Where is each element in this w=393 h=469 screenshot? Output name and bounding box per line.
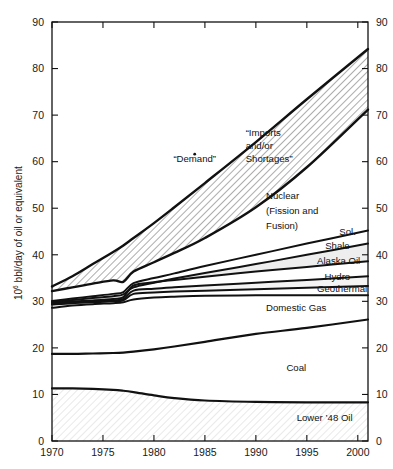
x-tick-1990: 1990 — [244, 446, 268, 458]
y-tick-left-40: 40 — [32, 249, 44, 261]
y-tick-right-50: 50 — [376, 202, 388, 214]
y-tick-left-20: 20 — [32, 342, 44, 354]
y-tick-right-80: 80 — [376, 62, 388, 74]
y-tick-right-90: 90 — [376, 16, 388, 28]
y-tick-left-90: 90 — [32, 16, 44, 28]
alaska-oil-label: Alaska Oil — [317, 255, 360, 266]
curve-coal — [52, 319, 368, 353]
y-tick-left-80: 80 — [32, 62, 44, 74]
geothermal-label: Geothermal — [317, 283, 367, 294]
imports-label-line3: Shortages” — [246, 153, 293, 164]
y-tick-right-0: 0 — [376, 435, 382, 447]
domestic-gas-label: Domestic Gas — [266, 302, 326, 313]
x-tick-1995: 1995 — [295, 446, 319, 458]
y-axis-title: 106 bbl/day of oil or equivalent — [12, 166, 24, 300]
chart-container: 0102030405060708090010203040506070809019… — [0, 0, 393, 469]
x-tick-2000: 2000 — [346, 446, 370, 458]
y-tick-right-40: 40 — [376, 249, 388, 261]
x-tick-1980: 1980 — [142, 446, 166, 458]
y-tick-left-30: 30 — [32, 295, 44, 307]
y-tick-left-70: 70 — [32, 109, 44, 121]
y-tick-left-10: 10 — [32, 388, 44, 400]
y-axis-title-rest: bbl/day of oil or equivalent — [13, 166, 24, 285]
y-tick-left-50: 50 — [32, 202, 44, 214]
y-tick-right-10: 10 — [376, 388, 388, 400]
x-tick-1985: 1985 — [193, 446, 217, 458]
imports-label-line2: and/or — [246, 140, 274, 151]
y-axis-title-base: 10 — [13, 288, 24, 300]
stacked-bands — [52, 49, 368, 441]
imports-label-line1: “Imports — [246, 127, 281, 138]
coal-label: Coal — [286, 362, 306, 373]
y-tick-left-0: 0 — [38, 435, 44, 447]
demand-marker-dot — [193, 153, 196, 156]
solar-label: Sol. — [339, 226, 356, 237]
nuclear-label-line3: Fusion) — [266, 220, 298, 231]
energy-supply-demand-chart: 0102030405060708090010203040506070809019… — [0, 0, 393, 469]
y-tick-right-60: 60 — [376, 155, 388, 167]
nuclear-label-line1: Nuclear — [266, 190, 300, 201]
y-tick-right-20: 20 — [376, 342, 388, 354]
shale-label: Shale — [325, 240, 350, 251]
y-tick-right-30: 30 — [376, 295, 388, 307]
hydro-label: Hydro — [325, 271, 351, 282]
y-tick-right-70: 70 — [376, 109, 388, 121]
y-tick-left-60: 60 — [32, 155, 44, 167]
x-tick-1975: 1975 — [91, 446, 115, 458]
svg-text:106 bbl/day of oil or equivale: 106 bbl/day of oil or equivalent — [12, 166, 24, 300]
lower-48-oil-label: Lower ’48 Oil — [297, 412, 353, 423]
x-tick-1970: 1970 — [40, 446, 64, 458]
nuclear-label-line2: (Fission and — [266, 205, 318, 216]
